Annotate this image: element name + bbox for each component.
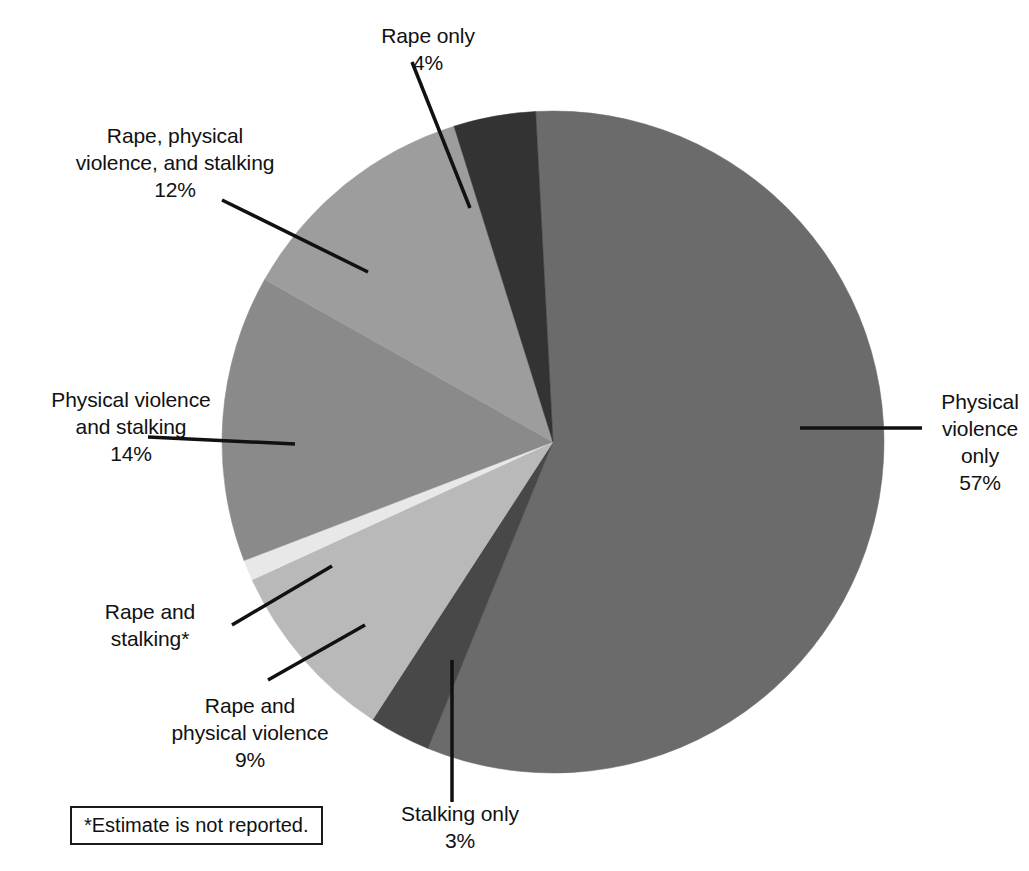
pie-slice-group bbox=[222, 111, 884, 773]
slice-label-rape-physical-violence-stalking: Rape, physical violence, and stalking 12… bbox=[30, 122, 320, 203]
slice-label-rape-and-stalking: Rape and stalking* bbox=[40, 598, 260, 652]
slice-label-physical-violence-and-stalking: Physical violence and stalking 14% bbox=[6, 386, 256, 467]
slice-label-rape-and-physical-violence: Rape and physical violence 9% bbox=[110, 692, 390, 773]
pie-chart-figure: Rape only 4% Rape, physical violence, an… bbox=[0, 0, 1029, 871]
slice-label-physical-violence-only: Physical violence only 57% bbox=[932, 388, 1028, 496]
slice-label-stalking-only: Stalking only 3% bbox=[330, 800, 590, 854]
slice-label-rape-only: Rape only 4% bbox=[308, 22, 548, 76]
footnote-estimate-not-reported: *Estimate is not reported. bbox=[70, 806, 323, 845]
